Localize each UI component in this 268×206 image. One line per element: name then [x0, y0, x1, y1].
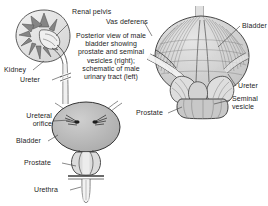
- label-ureteral-orifice: Ureteral orifice: [6, 112, 52, 128]
- anatomy-illustration: [0, 0, 268, 206]
- label-prostate-left: Prostate: [24, 159, 51, 167]
- label-seminal-vesicle: Seminal vesicle: [232, 95, 266, 111]
- label-kidney: Kidney: [4, 66, 26, 74]
- label-bladder-right: Bladder: [242, 22, 267, 30]
- label-vas-deferens: Vas deferens: [106, 18, 148, 26]
- kidney-drawing: [16, 10, 70, 64]
- label-ureter-right: Ureter: [238, 82, 258, 90]
- label-ureter-left: Ureter: [20, 76, 40, 84]
- figure-caption: Posterior view of male bladder showing p…: [74, 32, 148, 81]
- label-bladder-left: Bladder: [16, 137, 41, 145]
- label-renal-pelvis: Renal pelvis: [72, 8, 111, 16]
- ureter-tube: [60, 63, 71, 104]
- prostate-organ: [177, 99, 228, 119]
- label-prostate-right: Prostate: [136, 109, 163, 117]
- urethra-schematic: [82, 179, 90, 203]
- anatomy-figure: Renal pelvis Kidney Ureter Ureteral orif…: [0, 0, 268, 206]
- label-urethra: Urethra: [34, 186, 58, 194]
- bladder-schematic: [52, 101, 122, 158]
